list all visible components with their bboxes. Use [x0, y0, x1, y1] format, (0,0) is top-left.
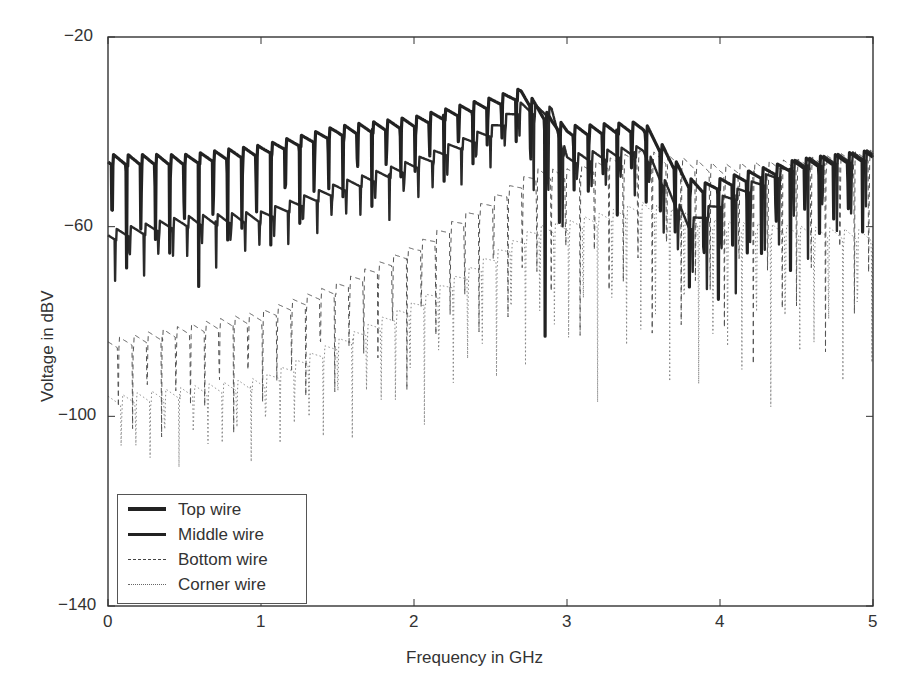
x-tick-label: 4: [715, 612, 724, 632]
legend-item-top-wire: Top wire: [118, 498, 306, 522]
y-tick-label: −20: [64, 26, 93, 46]
legend-item-bottom-wire: Bottom wire: [118, 548, 306, 572]
x-axis-label: Frequency in GHz: [406, 648, 543, 668]
legend: Top wire Middle wire Bottom wire Corner …: [117, 494, 307, 604]
x-tick-label: 1: [256, 612, 265, 632]
series-corner-wire: [108, 202, 873, 467]
x-tick-label: 0: [103, 612, 112, 632]
solid-line-icon: [128, 533, 166, 536]
x-tick-label: 5: [868, 612, 877, 632]
legend-item-middle-wire: Middle wire: [118, 523, 306, 547]
legend-label: Top wire: [178, 500, 241, 520]
data-curves: [108, 89, 873, 467]
y-tick-label: −60: [64, 216, 93, 236]
series-middle-wire: [108, 103, 873, 294]
series-bottom-wire: [108, 150, 873, 437]
legend-label: Corner wire: [178, 575, 266, 595]
solid-line-icon: [128, 507, 166, 511]
series-top-wire: [108, 89, 873, 336]
x-tick-label: 3: [562, 612, 571, 632]
y-tick-label: −140: [58, 595, 96, 615]
y-axis-label: Voltage in dBV: [38, 290, 58, 402]
dashed-line-icon: [128, 559, 166, 560]
legend-label: Middle wire: [178, 525, 264, 545]
legend-item-corner-wire: Corner wire: [118, 573, 306, 597]
legend-label: Bottom wire: [178, 550, 268, 570]
x-tick-label: 2: [409, 612, 418, 632]
y-tick-label: −100: [58, 405, 96, 425]
dotted-line-icon: [128, 584, 166, 585]
